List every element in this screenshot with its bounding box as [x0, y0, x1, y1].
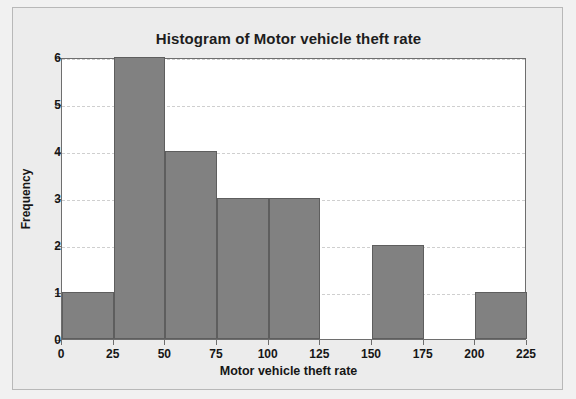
x-axis: 0255075100125150175200225 [61, 340, 526, 366]
x-tick-label: 125 [309, 347, 329, 361]
x-tick-label: 200 [464, 347, 484, 361]
y-tick-label: 4 [39, 145, 61, 159]
x-tick-mark [216, 340, 217, 345]
y-axis: 0123456 [13, 58, 61, 340]
screenshot-root: Histogram of Motor vehicle theft rate Fr… [0, 0, 576, 399]
y-tick-label: 6 [39, 51, 61, 65]
x-tick-mark [371, 340, 372, 345]
x-tick-label: 75 [209, 347, 222, 361]
y-tick-label: 1 [39, 286, 61, 300]
plot-area [61, 58, 526, 340]
x-tick-label: 50 [158, 347, 171, 361]
x-tick-mark [319, 340, 320, 345]
x-tick-mark [423, 340, 424, 345]
y-tick-label: 5 [39, 98, 61, 112]
x-tick-mark [268, 340, 269, 345]
histogram-bar [217, 198, 269, 339]
histogram-bar [165, 151, 217, 339]
y-tick-label: 2 [39, 239, 61, 253]
x-tick-mark [61, 340, 62, 345]
x-tick-label: 25 [106, 347, 119, 361]
chart-title: Histogram of Motor vehicle theft rate [13, 30, 564, 47]
x-tick-label: 150 [361, 347, 381, 361]
x-tick-label: 0 [58, 347, 65, 361]
histogram-bar [114, 57, 166, 339]
plot-inner [62, 59, 525, 339]
y-tick-label: 3 [39, 192, 61, 206]
x-tick-mark [164, 340, 165, 345]
x-tick-label: 100 [258, 347, 278, 361]
x-tick-label: 175 [413, 347, 433, 361]
x-tick-label: 225 [516, 347, 536, 361]
histogram-bar [475, 292, 527, 339]
chart-card: Histogram of Motor vehicle theft rate Fr… [12, 7, 563, 390]
histogram-bar [62, 292, 114, 339]
x-tick-mark [113, 340, 114, 345]
histogram-bar [372, 245, 424, 339]
histogram-bar [269, 198, 321, 339]
x-tick-mark [526, 340, 527, 345]
y-tick-label: 0 [39, 333, 61, 347]
x-tick-mark [474, 340, 475, 345]
x-axis-title: Motor vehicle theft rate [13, 364, 564, 378]
